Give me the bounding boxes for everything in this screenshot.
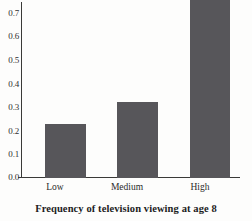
plot-area: [22, 0, 252, 178]
axis-origin-tick: [18, 177, 21, 178]
y-tick-label-0.7: 0.7: [0, 9, 19, 18]
y-tick-label-0.4: 0.4: [0, 80, 19, 89]
chart-caption: Frequency of television viewing at age 8: [0, 203, 252, 214]
y-tick-label-0.3: 0.3: [0, 103, 19, 112]
x-tick-label-low: Low: [25, 182, 85, 193]
x-tick-label-high: High: [170, 182, 230, 193]
bar-medium: [117, 102, 158, 178]
bar-high: [190, 0, 230, 178]
y-tick-label-0.0: 0.0: [0, 173, 19, 182]
y-tick-label-0.5: 0.5: [0, 56, 19, 65]
bar-low: [45, 124, 86, 178]
y-tick-label-0.1: 0.1: [0, 150, 19, 159]
chart-figure: 0.7 0.6 0.5 0.4 0.3 0.2 0.1 0.0 Low Medi…: [0, 0, 252, 221]
x-tick-label-medium: Medium: [97, 182, 157, 193]
y-tick-label-0.6: 0.6: [0, 32, 19, 41]
y-tick-label-0.2: 0.2: [0, 127, 19, 136]
